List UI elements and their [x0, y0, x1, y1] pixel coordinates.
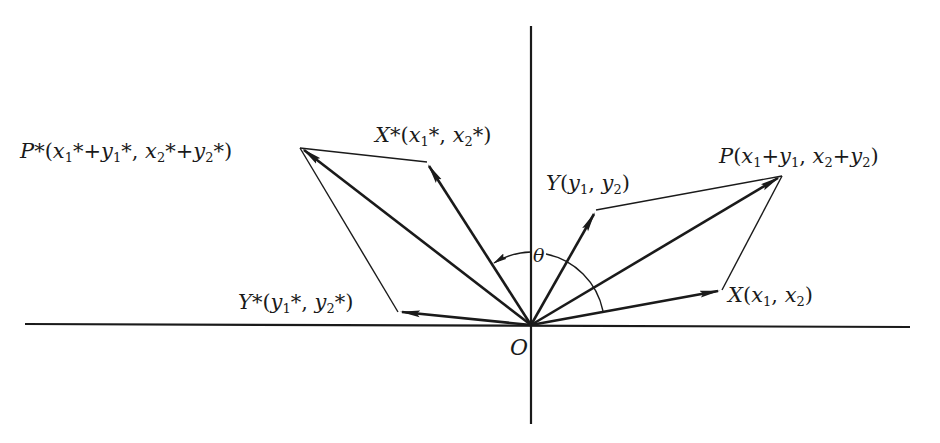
label-Xstar: X*(x1*, x2*): [373, 123, 491, 149]
vector-Ystar: [402, 312, 531, 325]
vector-Y: [531, 214, 594, 325]
edge-Ystar-to-Pstar: [300, 148, 398, 312]
theta-arc-upper: [494, 252, 531, 263]
label-Pstar: P*(x1*+y1*, x2*+y2*): [19, 139, 232, 165]
x-axis: [25, 324, 910, 327]
label-Ystar: Y*(y1*, y2*): [238, 290, 353, 316]
vector-Xstar: [429, 166, 531, 325]
label-P: P(x1+y1, x2+y2): [718, 144, 879, 170]
rotation-vector-diagram: θ O P*(x1*+y1*, x2*+y2*) X*(x1*, x2*) Y(…: [0, 0, 940, 443]
theta-label: θ: [533, 244, 545, 266]
edge-Xstar-to-Pstar: [300, 148, 427, 162]
origin-label: O: [510, 335, 528, 360]
label-X: X(x1, x2): [726, 283, 813, 309]
label-Y: Y(y1, y2): [546, 171, 630, 197]
